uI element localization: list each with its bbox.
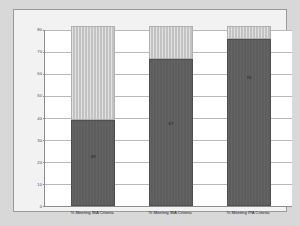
chart-card: 0 10 20 30 40 50 60 70 80 — [13, 9, 287, 212]
x-axis-category-label: % Meeting IPA Criteria — [227, 211, 270, 215]
axis-tick — [43, 140, 45, 141]
axis-tick — [43, 74, 45, 75]
bar-segment-upper[interactable] — [227, 26, 271, 39]
x-axis-category-label: % Meeting IBA Criteria — [70, 211, 113, 215]
y-tick-label: 10 — [37, 183, 42, 187]
axis-tick — [43, 52, 45, 53]
y-tick-label: 60 — [37, 72, 42, 76]
bar-column[interactable]: 67 — [149, 26, 193, 206]
axis-tick — [43, 30, 45, 31]
axis-tick — [43, 162, 45, 163]
y-tick-label: 20 — [37, 161, 42, 165]
y-tick-label: 50 — [37, 94, 42, 98]
bar-segment-lower[interactable]: 39 — [71, 120, 115, 206]
bar-segment-upper[interactable] — [149, 26, 193, 59]
y-tick-label: 70 — [37, 50, 42, 54]
axis-tick — [43, 118, 45, 119]
axis-tick — [43, 96, 45, 97]
y-axis: 0 10 20 30 40 50 60 70 80 — [26, 30, 42, 207]
bar-column[interactable]: 76 — [227, 26, 271, 206]
axis-tick — [43, 206, 45, 207]
y-tick-label: 80 — [37, 28, 42, 32]
screenshot-root: 0 10 20 30 40 50 60 70 80 — [0, 0, 300, 226]
bar-value-label: 39 — [72, 155, 114, 159]
y-tick-label: 0 — [40, 205, 42, 209]
bar-segment-lower[interactable]: 67 — [149, 59, 193, 206]
x-axis-category-label: % Meeting IBA Criteria — [148, 211, 191, 215]
y-tick-label: 30 — [37, 139, 42, 143]
bar-segment-lower[interactable]: 76 — [227, 39, 271, 206]
bar-segment-upper[interactable] — [71, 26, 115, 121]
bar-value-label: 76 — [228, 76, 270, 80]
bar-column[interactable]: 39 — [71, 26, 115, 206]
bar-value-label: 67 — [150, 122, 192, 126]
y-tick-label: 40 — [37, 116, 42, 120]
plot-area: 39 67 76 — [44, 30, 292, 207]
axis-tick — [43, 184, 45, 185]
